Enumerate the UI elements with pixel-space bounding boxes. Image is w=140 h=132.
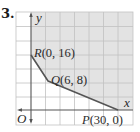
point-R-coords: (0, 16) bbox=[42, 46, 75, 60]
point-R-name: R bbox=[33, 46, 42, 60]
svg-text:Q(6, 8): Q(6, 8) bbox=[51, 73, 87, 87]
point-P: P(30, 0) bbox=[81, 113, 123, 127]
point-Q: Q(6, 8) bbox=[51, 73, 87, 87]
x-axis-label: x bbox=[123, 95, 130, 110]
svg-text:R(0, 16): R(0, 16) bbox=[33, 46, 75, 60]
svg-text:P(30, 0): P(30, 0) bbox=[81, 113, 123, 127]
point-P-coords: (30, 0) bbox=[90, 113, 123, 127]
y-axis-arrow-down-icon bbox=[29, 119, 32, 124]
problem-number: 3. bbox=[1, 6, 15, 21]
y-axis-label: y bbox=[34, 10, 42, 25]
origin-label: O bbox=[17, 111, 27, 126]
feasible-region-diagram: 3. y x O R(0, 16) Q(6, 8) P(30, 0) bbox=[0, 0, 140, 132]
point-Q-name: Q bbox=[51, 73, 60, 87]
point-P-name: P bbox=[81, 113, 90, 127]
point-R: R(0, 16) bbox=[33, 46, 75, 60]
point-Q-coords: (6, 8) bbox=[60, 73, 87, 87]
